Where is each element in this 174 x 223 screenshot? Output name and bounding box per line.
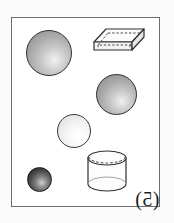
figure-container: (5) bbox=[0, 0, 174, 223]
small-white-sphere bbox=[57, 114, 91, 148]
figure-label: (5) bbox=[135, 189, 160, 209]
figure-label-close-paren: ) bbox=[153, 188, 160, 210]
large-light-gray-sphere bbox=[26, 30, 72, 76]
figure-label-number: 5 bbox=[142, 189, 153, 209]
medium-gray-sphere bbox=[96, 74, 137, 115]
open-rectangular-box bbox=[92, 27, 146, 62]
cylinder bbox=[85, 149, 129, 195]
small-dark-sphere bbox=[27, 167, 52, 192]
